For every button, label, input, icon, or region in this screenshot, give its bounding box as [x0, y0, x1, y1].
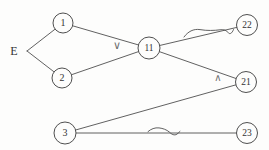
- edge-11-22: [149, 25, 247, 48]
- node-2-label: 2: [60, 72, 65, 83]
- squiggle-mark-11-22: [184, 29, 234, 37]
- edge-11-21: [149, 48, 246, 82]
- graph-canvas: 12112221323E∨∧: [0, 0, 269, 150]
- node-3-label: 3: [63, 127, 68, 138]
- node-21-label: 21: [241, 77, 251, 87]
- node-1-label: 1: [61, 17, 66, 28]
- squiggle-mark-3-23: [148, 128, 180, 135]
- edge-1-11: [63, 23, 149, 48]
- tree-diagram: 12112221323E∨∧: [0, 0, 269, 150]
- node-22-label: 22: [242, 20, 252, 30]
- node-11-label: 11: [144, 43, 153, 53]
- root-label: E: [10, 44, 17, 58]
- node-23-label: 23: [242, 128, 252, 138]
- or-symbol: ∨: [113, 39, 121, 51]
- edge-2-11: [62, 48, 149, 78]
- and-symbol: ∧: [214, 72, 221, 83]
- edge-3-21: [65, 82, 246, 133]
